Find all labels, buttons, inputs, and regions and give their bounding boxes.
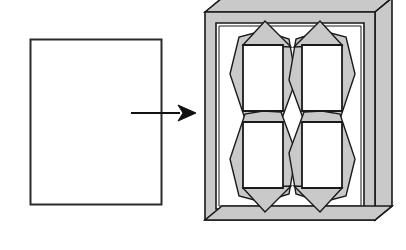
unit-bottom-left-face	[243, 122, 283, 188]
unit-bottom-right-face	[302, 122, 342, 188]
figure-canvas: Flat blank transformed into packed tray …	[0, 0, 406, 250]
unit-top-left-face	[243, 45, 283, 111]
tray-bottom-face	[205, 206, 392, 220]
tray-top-face	[205, 0, 392, 12]
arrow-head	[178, 105, 196, 121]
unit-top-right-face	[302, 45, 342, 111]
diagram-svg	[0, 0, 406, 250]
source-blank-rect	[31, 40, 162, 205]
tray-right-face	[375, 0, 392, 220]
